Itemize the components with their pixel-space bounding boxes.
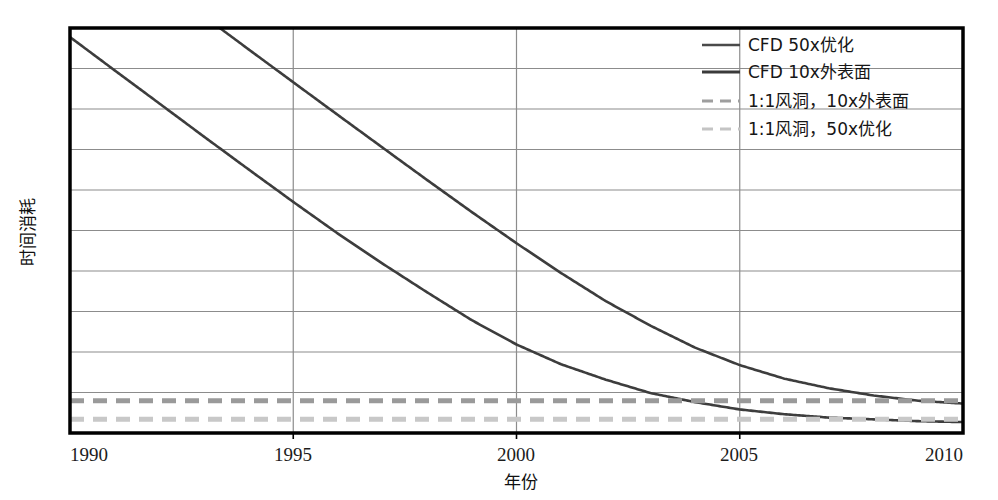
x-tick-label-2000: 2000	[497, 444, 535, 465]
legend-label-1: CFD 10x外表面	[748, 62, 871, 82]
legend-label-0: CFD 50x优化	[748, 35, 854, 55]
legend-label-2: 1:1风洞，10x外表面	[748, 91, 909, 111]
x-tick-label-1995: 1995	[274, 444, 312, 465]
x-tick-label-2010: 2010	[925, 444, 963, 465]
x-tick-label-2005: 2005	[720, 444, 758, 465]
x-axis-title: 年份	[504, 472, 538, 492]
legend-label-3: 1:1风洞，50x优化	[748, 119, 892, 139]
y-axis-title: 时间消耗	[18, 198, 38, 266]
x-tick-label-1990: 1990	[70, 444, 108, 465]
chart-container: 1990 1995 2000 2005 2010 年份 时间消耗 CFD 50x…	[0, 0, 998, 500]
time-cost-vs-year-line-chart: 1990 1995 2000 2005 2010 年份 时间消耗 CFD 50x…	[0, 0, 998, 500]
